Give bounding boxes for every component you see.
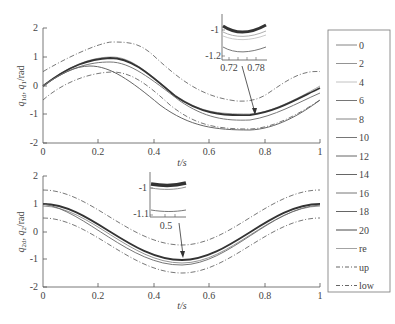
bottom-ytick-0: 0: [33, 226, 38, 237]
bottom-xtick-06: 0.6: [203, 290, 216, 301]
legend-label: 10: [359, 132, 369, 143]
legend-label: 16: [359, 188, 369, 199]
top-xtick-0: 0: [41, 146, 46, 157]
top-xtick-02: 0.2: [92, 146, 105, 157]
bottom-ytick-m2: -2: [30, 281, 38, 292]
bottom-xtick-02: 0.2: [92, 290, 105, 301]
top-inset-arrow: [242, 66, 255, 113]
bottom-inset-ytick-2: -1.1: [133, 208, 149, 219]
top-ytick-1: 1: [33, 51, 38, 62]
bottom-xtick-1: 1: [318, 290, 323, 301]
top-iter0-curve: [43, 66, 320, 130]
top-inset-xtick-1: 0.72: [220, 62, 238, 73]
top-ytick-m2: -2: [30, 137, 38, 148]
top-inset-ytick-2: -1.2: [205, 50, 221, 61]
top-ytick-0: 0: [33, 80, 38, 91]
top-inset: -1 -1.2 0.72 0.78: [205, 14, 267, 115]
legend-label: 4: [359, 77, 364, 88]
legend-label: 0: [359, 40, 364, 51]
bottom-inset-xtick-1: 0.5: [160, 220, 173, 231]
top-mid-curve: [43, 62, 320, 120]
top-y-label: q1d, q1/rad: [15, 65, 28, 106]
bottom-y-label: q2d, q2/rad: [15, 211, 28, 252]
legend-label: 6: [359, 95, 364, 106]
top-xtick-08: 0.8: [259, 146, 272, 157]
top-plot: 2 1 0 -1 -2 0 0.2 0.4 0.6 0.8 1 t/s q1d,…: [15, 14, 323, 168]
bottom-xtick-04: 0.4: [148, 290, 161, 301]
bottom-xtick-0: 0: [41, 290, 46, 301]
top-x-label: t/s: [177, 157, 187, 168]
legend-label: 2: [359, 58, 364, 69]
legend-label: 20: [359, 225, 369, 236]
legend-label: 12: [359, 151, 369, 162]
bottom-ytick-1: 1: [33, 198, 38, 209]
top-ytick-m1: -1: [30, 108, 38, 119]
bottom-ytick-2: 2: [33, 170, 38, 181]
top-ytick-2: 2: [33, 22, 38, 33]
legend-label: up: [359, 262, 369, 273]
legend-label: 18: [359, 206, 369, 217]
bottom-inset-ytick-1: -1: [139, 182, 147, 193]
bottom-ytick-m1: -1: [30, 253, 38, 264]
legend-label: 14: [359, 169, 369, 180]
bottom-plot: 2 1 0 -1 -2 0 0.2 0.4 0.6 0.8 1 t/s q2d,…: [15, 170, 323, 311]
bottom-x-label: t/s: [177, 300, 187, 311]
top-inset-xtick-2: 0.78: [247, 62, 265, 73]
chart-canvas: 2 1 0 -1 -2 0 0.2 0.4 0.6 0.8 1 t/s q1d,…: [0, 0, 395, 324]
top-inset-ytick-1: -1: [211, 24, 219, 35]
top-up-curve: [43, 42, 320, 101]
legend-label: low: [359, 280, 375, 291]
bottom-xtick-08: 0.8: [259, 290, 272, 301]
top-xtick-04: 0.4: [148, 146, 161, 157]
legend-label: re: [359, 243, 367, 254]
top-xtick-1: 1: [318, 146, 323, 157]
legend-label: 8: [359, 114, 364, 125]
legend: 02468101214161820reuplow: [328, 30, 390, 292]
top-xtick-06: 0.6: [203, 146, 216, 157]
bottom-inset-arrow: [179, 223, 183, 255]
